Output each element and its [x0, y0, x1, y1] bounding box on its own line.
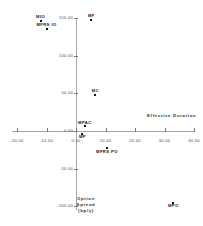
x-tick-label: 40.00 — [188, 139, 200, 143]
scatter-plot-canvas: -20.00-10.000.0010.0020.0030.0040.00 -10… — [0, 0, 203, 226]
data-point-marker — [94, 94, 96, 96]
data-point-marker — [84, 125, 86, 127]
x-tick-label: 20.00 — [129, 139, 141, 143]
y-tick — [74, 18, 78, 19]
x-tick — [194, 128, 195, 132]
x-tick — [106, 128, 107, 132]
x-axis-title: Effective Duration — [147, 113, 196, 119]
y-tick — [74, 93, 78, 94]
data-point-label: MC — [92, 89, 99, 93]
x-tick-label: 30.00 — [159, 139, 171, 143]
data-point-label: MPAC — [78, 121, 92, 125]
x-axis-line — [12, 131, 194, 132]
data-point-marker — [46, 28, 48, 30]
y-tick-label: 150.00 — [59, 16, 73, 20]
y-axis-line — [76, 18, 77, 210]
x-tick-label: 0.00 — [72, 139, 81, 143]
y-tick — [74, 169, 78, 170]
x-tick-label: 10.00 — [100, 139, 112, 143]
data-point-label: MF — [88, 14, 95, 18]
x-tick-label: -10.00 — [40, 139, 53, 143]
data-point-marker — [90, 19, 92, 21]
data-point-label: MFRS IO — [36, 23, 56, 27]
data-point-label: MPO — [168, 204, 179, 208]
x-tick — [165, 128, 166, 132]
data-point-label: MFRS PO — [96, 150, 118, 154]
x-tick — [17, 128, 18, 132]
y-tick-label: -50.00 — [60, 167, 73, 171]
y-tick — [74, 56, 78, 57]
y-axis-title: OptionSpread(bp/y) — [68, 196, 104, 215]
x-tick — [135, 128, 136, 132]
y-axis-title-line: (bp/y) — [68, 208, 104, 214]
data-point-label: MIO — [36, 15, 45, 19]
y-tick-label: 0.00 — [64, 129, 73, 133]
x-tick-label: -20.00 — [10, 139, 23, 143]
x-tick — [47, 128, 48, 132]
y-tick-label: 100.00 — [59, 54, 73, 58]
y-tick — [74, 131, 78, 132]
data-point-label: MP — [79, 135, 86, 139]
y-tick-label: 50.00 — [62, 91, 74, 95]
